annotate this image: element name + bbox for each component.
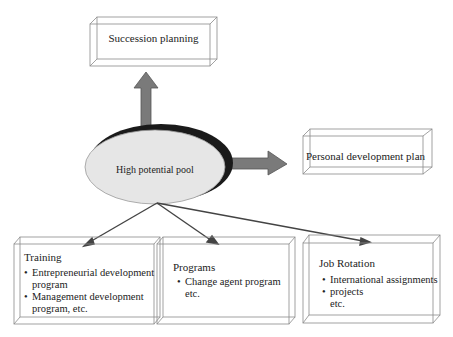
training-item: Management development [24, 291, 154, 303]
arrow-up-to-succession [134, 72, 158, 128]
programs-title: Programs [173, 261, 215, 274]
programs-list: Change agent program etc. [177, 276, 281, 300]
arrow-right-to-personal-plan [225, 151, 287, 175]
succession-planning-label: Succession planning [97, 32, 210, 45]
job-rotation-title: Job Rotation [319, 257, 375, 270]
training-item: program [24, 279, 154, 291]
programs-item: Change agent program [177, 276, 281, 288]
job-rotation-list: International assignments projects etc. [322, 274, 438, 310]
arrows-to-bottom-boxes [84, 203, 370, 246]
job-rotation-item: projects [322, 286, 438, 298]
training-title: Training [24, 251, 62, 264]
programs-item: etc. [177, 288, 281, 300]
training-item: Entrepreneurial development [24, 267, 154, 279]
personal-development-plan-label: Personal development plan [303, 150, 428, 163]
training-item: program, etc. [24, 303, 154, 315]
job-rotation-item: International assignments [322, 274, 438, 286]
high-potential-pool-label: High potential pool [100, 163, 210, 176]
job-rotation-item: etc. [322, 298, 438, 310]
training-list: Entrepreneurial development program Mana… [24, 267, 154, 315]
